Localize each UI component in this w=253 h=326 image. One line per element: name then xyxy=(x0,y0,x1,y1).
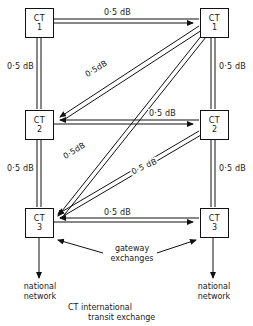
node-ct1-left-type: CT xyxy=(34,15,46,23)
node-ct1-left[interactable]: CT 1 xyxy=(25,8,54,38)
label-left-upper: 0·5 dB xyxy=(6,62,35,71)
link-top-horizontal xyxy=(54,19,199,23)
node-ct1-left-number: 1 xyxy=(37,24,42,32)
node-ct2-right-number: 2 xyxy=(212,126,217,134)
connection-lines xyxy=(0,0,253,326)
link-left-lower xyxy=(37,139,41,207)
link-diag-ct1r-ct3l xyxy=(58,35,206,219)
gateway-pointer-left xyxy=(58,240,103,253)
node-ct1-right-type: CT xyxy=(209,15,221,23)
node-ct3-left[interactable]: CT 3 xyxy=(25,208,54,238)
national-network-right-line1: national xyxy=(186,282,242,292)
node-ct2-right-type: CT xyxy=(209,117,221,125)
link-diag-ct1r-ct2l xyxy=(60,26,202,121)
node-ct2-left[interactable]: CT 2 xyxy=(25,110,54,140)
node-ct3-right[interactable]: CT 3 xyxy=(200,208,229,238)
national-network-right: national network xyxy=(186,282,242,302)
label-bottom-horizontal: 0·5 dB xyxy=(103,208,132,217)
diagram-caption-line2: transit exchange xyxy=(68,313,155,323)
node-ct3-right-number: 3 xyxy=(212,224,217,232)
diagram-caption-line1: CT international xyxy=(68,303,155,313)
link-right-upper xyxy=(211,38,215,109)
national-network-right-line2: network xyxy=(186,292,242,302)
link-right-lower xyxy=(211,139,215,207)
node-ct2-right[interactable]: CT 2 xyxy=(200,110,229,140)
label-left-lower: 0·5 dB xyxy=(6,164,35,173)
network-diagram: CT 1 CT 1 CT 2 CT 2 CT 3 CT 3 0·5 dB 0·5… xyxy=(0,0,253,326)
node-ct2-left-number: 2 xyxy=(37,126,42,134)
link-bottom-horizontal xyxy=(54,218,199,222)
node-ct3-right-type: CT xyxy=(209,215,221,223)
diagram-caption: CT international transit exchange xyxy=(68,303,155,323)
label-top-horizontal: 0·5 dB xyxy=(103,8,132,17)
national-network-left: national network xyxy=(12,282,68,302)
label-middle-horizontal: 0·5 dB xyxy=(148,109,177,118)
node-ct2-left-type: CT xyxy=(34,117,46,125)
gateway-exchanges-line2: exchanges xyxy=(104,254,160,264)
node-ct3-left-number: 3 xyxy=(37,224,42,232)
label-right-lower: 0·5 dB xyxy=(218,164,247,173)
node-ct3-left-type: CT xyxy=(34,215,46,223)
national-network-left-line2: network xyxy=(12,292,68,302)
national-network-left-line1: national xyxy=(12,282,68,292)
node-ct1-right[interactable]: CT 1 xyxy=(200,8,229,38)
gateway-exchanges-line1: gateway xyxy=(104,244,160,254)
gateway-exchanges-label: gateway exchanges xyxy=(104,244,160,264)
link-left-upper xyxy=(37,38,41,109)
node-ct1-right-number: 1 xyxy=(212,24,217,32)
label-right-upper: 0·5 dB xyxy=(218,62,247,71)
link-middle-horizontal xyxy=(54,120,199,124)
gateway-pointer-right xyxy=(157,240,196,253)
